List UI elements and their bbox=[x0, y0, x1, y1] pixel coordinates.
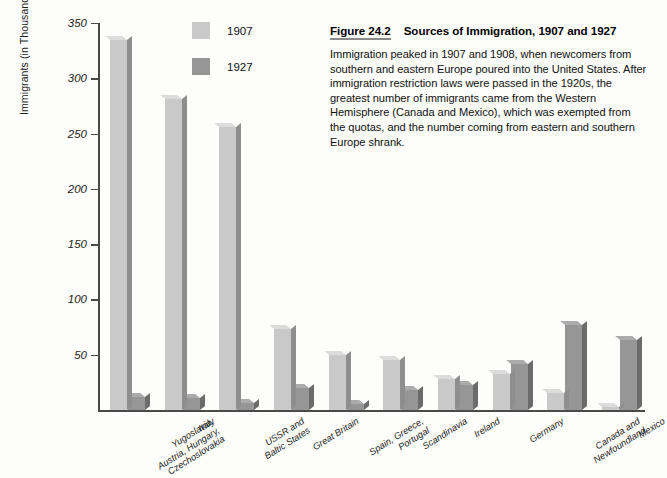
bar-front-face bbox=[438, 379, 455, 410]
legend-label: 1907 bbox=[227, 25, 253, 37]
bar-side-face bbox=[145, 393, 150, 410]
category-label-2: USSR andBaltic States bbox=[257, 416, 312, 461]
bar-1907-2 bbox=[219, 127, 236, 410]
bar-side-face bbox=[236, 123, 241, 410]
bar-side-face bbox=[309, 384, 314, 410]
bar-front-face bbox=[620, 340, 637, 410]
y-tick-mark bbox=[91, 355, 98, 356]
bar-side-face bbox=[418, 386, 423, 410]
bar-1907-9 bbox=[602, 407, 619, 410]
y-tick-mark bbox=[91, 189, 98, 190]
figure-title: Sources of Immigration, 1907 and 1927 bbox=[404, 24, 617, 37]
bar-1907-8 bbox=[547, 393, 564, 410]
bar-side-face bbox=[473, 381, 478, 410]
bar-front-face bbox=[274, 329, 291, 410]
bar-side-face bbox=[582, 321, 587, 410]
bar-side-face bbox=[528, 360, 533, 410]
bar-side-face bbox=[455, 375, 460, 410]
bar-side-face bbox=[346, 351, 351, 410]
category-label-8: Canada andNewfoundland bbox=[586, 416, 648, 465]
bar-1907-5 bbox=[383, 360, 400, 410]
chart-legend: 19071927 bbox=[192, 22, 253, 94]
category-label-3: Great Britain bbox=[311, 416, 361, 453]
caption-heading: Figure 24.2 Sources of Immigration, 1907… bbox=[330, 24, 648, 40]
bar-side-face bbox=[127, 36, 132, 410]
bar-side-face bbox=[364, 401, 369, 410]
y-tick-label: 50 bbox=[74, 349, 87, 361]
y-tick-mark bbox=[91, 78, 98, 79]
bar-side-face bbox=[510, 370, 515, 410]
bar-front-face bbox=[219, 127, 236, 410]
legend-item-1927: 1927 bbox=[192, 58, 253, 75]
y-tick-mark bbox=[91, 23, 98, 24]
category-label-9: Mexico bbox=[636, 416, 667, 441]
bar-1907-3 bbox=[274, 329, 291, 410]
bar-1927-9 bbox=[620, 340, 637, 410]
bar-1907-7 bbox=[493, 374, 510, 410]
figure-caption: Figure 24.2 Sources of Immigration, 1907… bbox=[330, 24, 648, 149]
figure-number: Figure 24.2 bbox=[330, 24, 391, 40]
bar-side-face bbox=[400, 356, 405, 410]
y-tick-mark bbox=[91, 244, 98, 245]
category-label-line: Mexico bbox=[636, 416, 667, 441]
bar-front-face bbox=[110, 40, 127, 410]
bar-front-face bbox=[329, 355, 346, 410]
x-axis-line bbox=[98, 410, 645, 412]
bar-1907-4 bbox=[329, 355, 346, 410]
bar-front-face bbox=[547, 393, 564, 410]
category-label-line: Ireland bbox=[472, 416, 502, 440]
y-tick-label: 250 bbox=[68, 128, 87, 140]
y-axis-title: Immigrants (in Thousands) bbox=[18, 0, 30, 115]
y-tick-mark bbox=[91, 299, 98, 300]
bar-side-face bbox=[254, 399, 259, 410]
y-axis-line bbox=[98, 23, 100, 410]
legend-item-1907: 1907 bbox=[192, 22, 253, 39]
legend-swatch-icon bbox=[192, 58, 210, 75]
bar-front-face bbox=[493, 374, 510, 410]
category-label-line: Germany bbox=[528, 416, 566, 445]
y-tick-label: 350 bbox=[68, 17, 87, 29]
bar-side-face bbox=[182, 95, 187, 410]
caption-body-text: Immigration peaked in 1907 and 1908, whe… bbox=[330, 47, 648, 149]
bar-1907-1 bbox=[165, 99, 182, 410]
bar-side-face bbox=[291, 325, 296, 410]
category-label-6: Ireland bbox=[472, 416, 502, 440]
y-tick-label: 300 bbox=[68, 72, 87, 84]
y-tick-label: 100 bbox=[68, 293, 87, 305]
bar-1907-0 bbox=[110, 40, 127, 410]
y-tick-mark bbox=[91, 134, 98, 135]
bar-front-face bbox=[383, 360, 400, 410]
bar-1907-6 bbox=[438, 379, 455, 410]
y-tick-label: 150 bbox=[68, 238, 87, 250]
category-label-line: Great Britain bbox=[311, 416, 361, 453]
legend-swatch-icon bbox=[192, 22, 210, 39]
bar-front-face bbox=[602, 407, 619, 410]
bar-side-face bbox=[637, 336, 642, 410]
category-label-7: Germany bbox=[528, 416, 566, 445]
bar-side-face bbox=[200, 394, 205, 410]
bar-front-face bbox=[165, 99, 182, 410]
y-tick-label: 200 bbox=[68, 183, 87, 195]
legend-label: 1927 bbox=[227, 61, 253, 73]
